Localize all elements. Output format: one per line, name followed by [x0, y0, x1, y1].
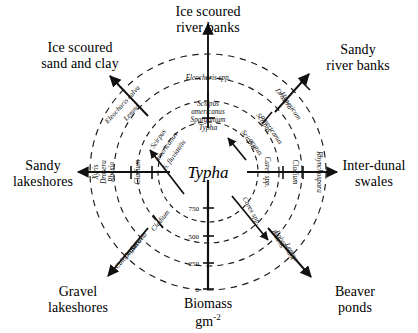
species-north-sparganium: Sparganium	[191, 116, 226, 124]
biomass-tick-label-500: 500	[189, 233, 200, 241]
biomass-unit-base: gm	[195, 313, 213, 328]
habitat-label-west: Sandy lakeshores	[0, 158, 86, 189]
biomass-tick-label-0: 0	[196, 286, 200, 294]
center-species-label: Typha	[187, 163, 228, 182]
species-w-xyris: Xyris	[92, 164, 100, 180]
species-north-scirpus: Scirpus	[197, 100, 219, 108]
biomass-unit-exponent: -2	[213, 312, 221, 322]
species-north-eleocharis: Eleocharis spp.	[185, 74, 231, 82]
biomass-axis-title-line1: Biomass	[158, 296, 258, 312]
habitat-label-east: Inter-dunal swales	[330, 158, 418, 189]
species-w-rhexia: Rhexia	[108, 162, 116, 183]
habitat-label-north: Ice scoured river banks	[148, 4, 268, 35]
diagram-canvas: 750 500 250 0 Typha Typha Scirpus americ…	[0, 0, 418, 333]
habitat-label-southwest: Gravel lakeshores	[16, 284, 140, 315]
biomass-tick-label-250: 250	[189, 260, 200, 268]
species-north-americanus: americanus	[191, 108, 225, 116]
species-e-cladium: Cladium	[291, 160, 299, 185]
species-north-typha: Typha	[199, 123, 218, 132]
species-sw-cladium: Cladium	[149, 209, 171, 233]
habitat-label-northeast: Sandy river banks	[300, 42, 416, 73]
habitat-label-northwest: Ice scoured sand and clay	[6, 40, 154, 71]
cross-ne-2	[300, 80, 310, 90]
biomass-axis: 750 500 250 0	[189, 180, 215, 294]
species-sw-calopogon: Calopogon	[113, 241, 140, 271]
species-e-rhynchospora: Rhynchospora	[315, 150, 323, 193]
species-e-carex: Carex spp.	[263, 157, 271, 188]
biomass-axis-title-line2: gm-2	[158, 312, 258, 329]
species-w-cladium: Cladium	[134, 160, 142, 185]
tick-northeast-inner	[228, 138, 246, 160]
biomass-axis-title: Biomass gm-2	[158, 296, 258, 329]
species-w-drosera: Drosera	[100, 160, 108, 185]
biomass-tick-label-750: 750	[189, 205, 200, 213]
habitat-label-southeast: Beaver ponds	[302, 284, 408, 315]
